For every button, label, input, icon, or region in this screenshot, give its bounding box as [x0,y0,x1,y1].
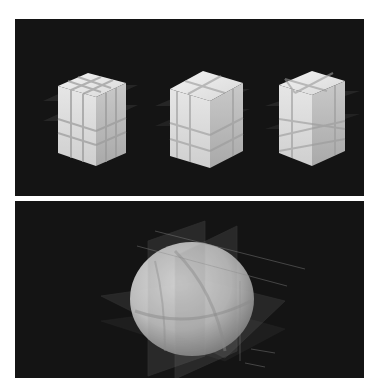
cube-2 [155,71,250,168]
bottom-panel-sphere [15,201,364,378]
sphere-illustration [15,201,364,378]
cube-1 [43,73,138,166]
cubes-illustration [15,19,364,196]
top-panel-cubes [15,19,364,196]
cube-3 [265,71,360,166]
